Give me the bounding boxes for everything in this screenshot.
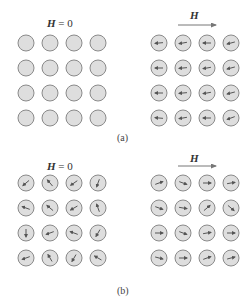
- grid-b-right: [151, 175, 239, 266]
- domain-circle: [18, 225, 34, 241]
- domain-circle: [151, 175, 167, 191]
- moment-arrow-icon: [155, 118, 163, 119]
- domain-circle: [66, 250, 82, 266]
- domain-circle: [175, 60, 191, 76]
- domain-circle: [223, 85, 239, 101]
- domain-circle: [42, 110, 58, 126]
- domain-circle: [66, 225, 82, 241]
- domain-circle: [18, 175, 34, 191]
- domain-circle: [42, 175, 58, 191]
- domain-circle: [66, 175, 82, 191]
- domain-circle: [223, 110, 239, 126]
- domain-circle: [18, 35, 34, 51]
- domain-circle: [175, 250, 191, 266]
- domain-circle: [199, 175, 215, 191]
- domain-circle: [90, 250, 106, 266]
- moment-arrow-icon: [155, 43, 163, 44]
- domain-circle: [199, 200, 215, 216]
- domain-circle: [90, 225, 106, 241]
- domain-circle: [223, 60, 239, 76]
- domain-circle: [90, 175, 106, 191]
- domain-circle: [66, 200, 82, 216]
- label-a-right: H: [190, 9, 199, 21]
- label-b-left: H = 0: [47, 160, 73, 172]
- domain-circle: [18, 60, 34, 76]
- domain-circle: [18, 250, 34, 266]
- domain-circle: [18, 110, 34, 126]
- domain-circle: [42, 225, 58, 241]
- domain-circle: [175, 225, 191, 241]
- label-b-right: H: [190, 152, 199, 164]
- domain-circle: [90, 35, 106, 51]
- label-a-left: H = 0: [47, 17, 73, 29]
- domain-circle: [223, 175, 239, 191]
- domain-circle: [90, 200, 106, 216]
- domain-circle: [90, 110, 106, 126]
- domain-circle: [90, 85, 106, 101]
- domain-circle: [66, 110, 82, 126]
- domain-circle: [42, 35, 58, 51]
- domain-circle: [151, 35, 167, 51]
- domain-circle: [151, 200, 167, 216]
- domain-circle: [18, 85, 34, 101]
- domain-circle: [66, 60, 82, 76]
- domain-circle: [175, 85, 191, 101]
- domain-circle: [42, 250, 58, 266]
- domain-circle: [223, 35, 239, 51]
- caption-b: (b): [117, 285, 129, 296]
- domain-circle: [151, 250, 167, 266]
- domain-circle: [175, 35, 191, 51]
- caption-a: (a): [117, 132, 128, 143]
- domain-circle: [90, 60, 106, 76]
- domain-circle: [199, 250, 215, 266]
- domain-circle: [175, 110, 191, 126]
- domain-circle: [199, 225, 215, 241]
- domain-circle: [199, 85, 215, 101]
- domain-circle: [223, 200, 239, 216]
- domain-circle: [199, 35, 215, 51]
- grid-b-left: [18, 175, 106, 266]
- domain-circle: [223, 225, 239, 241]
- domain-circle: [66, 85, 82, 101]
- domain-circle: [18, 200, 34, 216]
- domain-circle: [175, 175, 191, 191]
- domain-circle: [151, 60, 167, 76]
- domain-circle: [151, 110, 167, 126]
- domain-circle: [151, 225, 167, 241]
- domain-circle: [42, 200, 58, 216]
- domain-circle: [66, 35, 82, 51]
- grid-a-right: [151, 35, 239, 126]
- domain-circle: [42, 60, 58, 76]
- moment-arrow-icon: [179, 93, 187, 94]
- domain-circle: [175, 200, 191, 216]
- domain-circle: [42, 85, 58, 101]
- domain-circle: [199, 60, 215, 76]
- grid-a-left: [18, 35, 106, 126]
- domain-circle: [199, 110, 215, 126]
- domain-circle: [223, 250, 239, 266]
- domain-circle: [151, 85, 167, 101]
- magnetization-diagram: [0, 0, 252, 304]
- moment-arrow-icon: [179, 68, 187, 69]
